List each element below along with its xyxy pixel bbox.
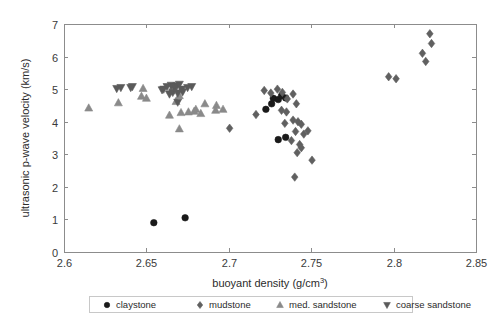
marker-diamond (290, 90, 297, 98)
x-tick-label: 2.7 (222, 257, 237, 269)
legend-marker-circle-icon (102, 300, 111, 309)
y-tick-label: 7 (52, 19, 58, 31)
y-tick-label: 6 (52, 52, 58, 64)
marker-triangle-up (201, 100, 209, 107)
scatter-plot-figure: 2.62.652.72.752.82.8501234567 buoyant de… (0, 0, 500, 324)
marker-circle (182, 215, 189, 222)
x-tick-label: 2.75 (301, 257, 322, 269)
series-mudstone (226, 30, 434, 182)
marker-circle (151, 219, 158, 226)
x-tick-label: 2.85 (466, 257, 487, 269)
y-tick-label: 4 (52, 117, 58, 129)
marker-circle (263, 106, 270, 113)
legend-label: med. sandstone (289, 300, 357, 310)
marker-triangle-up (114, 99, 122, 106)
marker-diamond (427, 30, 434, 38)
plot-frame (65, 25, 477, 253)
marker-circle (282, 134, 289, 141)
legend-marker-triangle-up-icon (275, 300, 284, 309)
marker-diamond (290, 116, 297, 124)
x-tick-label: 2.65 (136, 257, 157, 269)
y-tick-label: 2 (52, 182, 58, 194)
marker-triangle-down (384, 302, 391, 308)
y-tick-label: 1 (52, 214, 58, 226)
marker-diamond (419, 49, 426, 57)
marker-diamond (292, 127, 299, 135)
marker-triangle-up (85, 104, 93, 111)
marker-triangle-up (139, 84, 147, 91)
marker-diamond (278, 106, 285, 114)
legend-marker-diamond-icon (195, 300, 204, 309)
marker-triangle-up (184, 108, 192, 115)
marker-diamond (291, 173, 298, 181)
marker-diamond (282, 119, 289, 127)
x-axis-title: buoyant density (g/cm3) (212, 276, 327, 290)
legend: claystonemudstonemed. sandstonecoarse sa… (89, 296, 413, 313)
marker-diamond (283, 108, 290, 116)
y-axis-title: ultrasonic p-wave velocity (km/s) (19, 59, 31, 218)
marker-diamond (226, 124, 233, 132)
marker-triangle-up (177, 108, 185, 115)
marker-circle (104, 302, 109, 307)
x-tick-label: 2.8 (387, 257, 402, 269)
marker-diamond (422, 57, 429, 65)
marker-circle (268, 101, 275, 108)
marker-diamond (385, 73, 392, 81)
legend-label: mudstone (209, 300, 251, 310)
legend-entry-claystone[interactable]: claystone (102, 300, 156, 310)
marker-diamond (197, 302, 202, 309)
marker-diamond (293, 100, 300, 108)
marker-diamond (393, 75, 400, 83)
plot-canvas: 2.62.652.72.752.82.8501234567 buoyant de… (0, 0, 500, 324)
series-med-sandstone (85, 83, 227, 132)
series-coarse-sandstone (113, 81, 196, 106)
marker-triangle-up (165, 111, 173, 118)
marker-triangle-up (277, 302, 284, 308)
marker-diamond (428, 39, 435, 47)
y-tick-label: 3 (52, 149, 58, 161)
marker-circle (275, 136, 282, 143)
legend-marker-triangle-down-icon (382, 300, 391, 309)
marker-triangle-up (175, 125, 183, 132)
y-tick-label: 0 (52, 247, 58, 259)
x-tick-label: 2.6 (57, 257, 72, 269)
y-tick-label: 5 (52, 84, 58, 96)
legend-label: claystone (116, 300, 156, 310)
legend-label: coarse sandstone (396, 300, 471, 310)
marker-diamond (309, 156, 316, 164)
legend-entry-mudstone[interactable]: mudstone (195, 300, 251, 310)
legend-entry-med-sandstone[interactable]: med. sandstone (275, 300, 357, 310)
legend-entry-coarse-sandstone[interactable]: coarse sandstone (382, 300, 471, 310)
data-markers (85, 30, 435, 226)
marker-diamond (253, 110, 260, 118)
marker-diamond (261, 86, 268, 94)
